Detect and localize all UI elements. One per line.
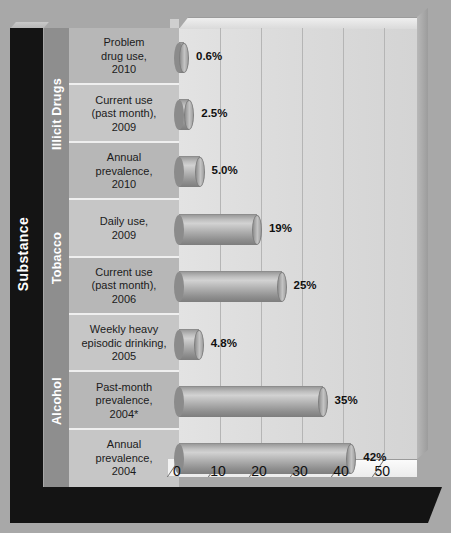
bar-value-label: 5.0% (212, 164, 238, 176)
group-label-text: Alcohol (50, 377, 64, 425)
bar (179, 156, 200, 187)
bar-value-label: 42% (363, 451, 386, 463)
bar-value-label: 0.6% (196, 50, 222, 62)
bar (179, 42, 184, 73)
x-axis-tick-label: 10 (203, 463, 233, 479)
x-axis-tick-label: 50 (367, 463, 397, 479)
group-label-text: Tobacco (50, 231, 64, 284)
plot-right-bevel (417, 8, 428, 459)
category-label-text: Daily use,2009 (100, 215, 148, 242)
bar-value-label: 19% (269, 222, 292, 234)
bar-value-label: 25% (294, 279, 317, 291)
chart-frame-left (10, 28, 43, 487)
bar (179, 214, 257, 245)
plot-area: 0.6%2.5%5.0%19%25%4.8%35%42% (179, 28, 417, 459)
bar-value-label: 2.5% (201, 107, 227, 119)
bar-value-label: 35% (335, 394, 358, 406)
group-label-alcohol: Alcohol (44, 315, 69, 487)
category-label-text: Current use(past month),2006 (92, 266, 157, 307)
x-axis-tick-label: 0 (162, 463, 192, 479)
category-label: Annualprevalence,2010 (69, 143, 179, 200)
bar-value-label: 4.8% (211, 337, 237, 349)
bar-left-cap (174, 157, 184, 187)
bar-left-cap (174, 272, 184, 302)
category-label: Past-monthprevalence,2004* (69, 372, 179, 429)
group-label-tobacco: Tobacco (44, 200, 69, 315)
bar (179, 329, 199, 360)
bar (179, 386, 323, 417)
category-label-text: Annualprevalence,2010 (96, 151, 153, 192)
category-label: Daily use,2009 (69, 200, 179, 257)
plot-left-bevel (170, 19, 179, 28)
bar (179, 271, 282, 302)
bar-end-cap (252, 215, 262, 245)
group-label-text: Illicit Drugs (50, 78, 64, 150)
category-label-text: Current use(past month),2009 (92, 94, 157, 135)
category-label-text: Annualprevalence,2004 (96, 438, 153, 479)
x-axis-tick-label: 30 (285, 463, 315, 479)
category-label-column: Problemdrug use,2010Current use(past mon… (69, 28, 179, 487)
chart-frame-bottom-bevel (428, 487, 442, 523)
x-axis-tick-label: 40 (326, 463, 356, 479)
bar-end-cap (179, 43, 189, 73)
substance-group-strip: Illicit DrugsTobaccoAlcohol (44, 28, 69, 487)
category-label-text: Weekly heavyepisodic drinking,2005 (82, 323, 167, 364)
gridline (384, 28, 385, 459)
bar-left-cap (174, 387, 184, 417)
category-label: Problemdrug use,2010 (69, 28, 179, 85)
category-label: Current use(past month),2006 (69, 258, 179, 315)
bar (179, 99, 189, 130)
bar-end-cap (195, 157, 205, 187)
group-label-illicit-drugs: Illicit Drugs (44, 28, 69, 200)
bar-left-cap (174, 100, 184, 130)
bar-end-cap (194, 330, 204, 360)
bar-end-cap (318, 387, 328, 417)
bar-left-cap (174, 330, 184, 360)
category-label-text: Problemdrug use,2010 (101, 36, 147, 77)
category-label-text: Past-monthprevalence,2004* (96, 381, 153, 422)
bar-left-cap (174, 215, 184, 245)
bar-end-cap (277, 272, 287, 302)
category-label: Weekly heavyepisodic drinking,2005 (69, 315, 179, 372)
x-axis-tick-label: 20 (244, 463, 274, 479)
chart-frame-bottom (10, 487, 428, 523)
category-label: Current use(past month),2009 (69, 85, 179, 142)
